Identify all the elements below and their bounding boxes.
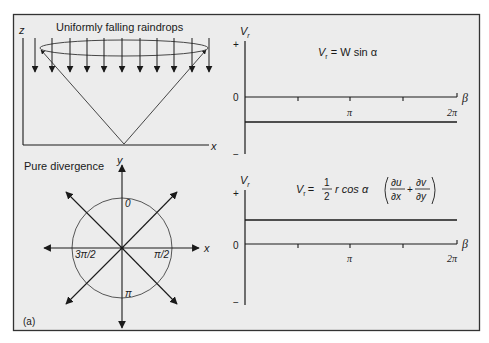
bottom-tick-2pi: 2π [447, 253, 458, 264]
bottom-beta-label: β [461, 237, 468, 251]
svg-text:2: 2 [324, 191, 330, 202]
panel-label: (a) [23, 316, 35, 327]
top-tick-2pi: 2π [447, 107, 458, 118]
z-axis-label: z [18, 24, 25, 36]
angle-label-0: 0 [125, 198, 131, 209]
svg-text:1: 1 [324, 177, 330, 188]
x-axis-label-div: x [203, 242, 210, 254]
svg-text:r cos α: r cos α [335, 183, 369, 195]
angle-label-3pi-2: 3π/2 [75, 249, 96, 260]
divergence-title: Pure divergence [24, 160, 104, 172]
top-zero: 0 [233, 92, 239, 103]
x-axis-label: x [210, 140, 217, 152]
svg-text:+: + [407, 184, 413, 195]
bottom-plus: + [233, 188, 239, 199]
top-beta-label: β [461, 91, 468, 105]
bottom-minus: − [233, 297, 239, 308]
top-formula: Vr = W sin α [318, 46, 378, 60]
top-minus: − [233, 149, 239, 160]
figure-frame [14, 15, 480, 331]
raindrops-title: Uniformly falling raindrops [56, 21, 184, 33]
svg-text:∂x: ∂x [391, 191, 402, 202]
angle-label-pi-2: π/2 [154, 249, 169, 260]
origin-dot [120, 246, 123, 249]
bottom-zero: 0 [233, 240, 239, 251]
figure: Uniformly falling raindrops z x Pure div… [0, 0, 489, 343]
top-plus: + [233, 39, 239, 50]
svg-text:∂v: ∂v [416, 177, 427, 188]
svg-text:∂u: ∂u [391, 177, 402, 188]
angle-label-pi: π [125, 288, 132, 299]
svg-text:∂y: ∂y [416, 191, 427, 202]
